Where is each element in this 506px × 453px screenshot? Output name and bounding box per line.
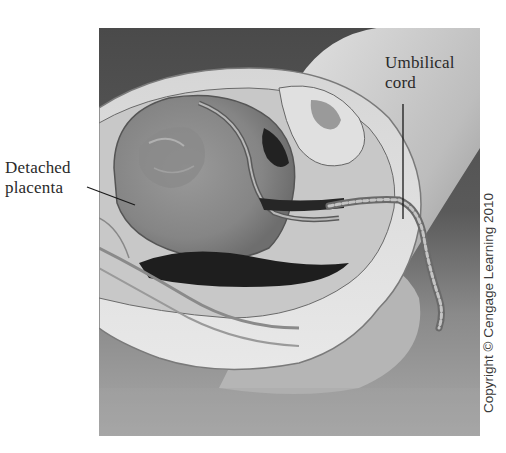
label-detached-placenta-line1: Detached (5, 158, 71, 178)
label-umbilical-cord-line1: Umbilical (385, 53, 455, 73)
copyright-notice: Copyright © Cengage Learning 2010 (478, 173, 500, 413)
label-detached-placenta: Detached placenta (5, 158, 71, 198)
label-umbilical-cord-line2: cord (385, 73, 455, 93)
label-detached-placenta-line2: placenta (5, 178, 71, 198)
label-umbilical-cord: Umbilical cord (385, 53, 455, 93)
